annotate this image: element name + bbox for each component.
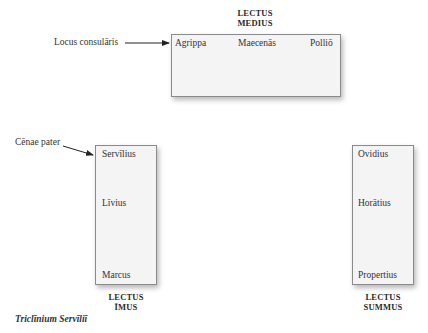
diagram-caption: Triclīnium Servīliī — [15, 314, 87, 324]
guest-pollio: Polliō — [310, 38, 333, 48]
lectus-medius-label: LECTUS MEDIUS — [215, 8, 295, 28]
lectus-medius-label-line2: MEDIUS — [215, 18, 295, 28]
cenae-pater-arrow — [63, 146, 93, 155]
lectus-imus-label-line1: LECTUS — [86, 292, 166, 302]
guest-servilius: Servīlius — [102, 149, 136, 159]
guest-livius: Līvius — [102, 198, 126, 208]
guest-agrippa: Agrippa — [175, 38, 206, 48]
cenae-pater-callout: Cēnae pater — [15, 137, 60, 147]
lectus-imus-couch: Servīlius Līvius Marcus — [95, 145, 157, 285]
guest-maecenas: Maecenās — [238, 38, 276, 48]
guest-ovidius: Ovidius — [358, 149, 388, 159]
lectus-summus-label-line1: LECTUS — [343, 292, 423, 302]
lectus-summus-couch: Ovidius Horātius Propertius — [352, 145, 414, 285]
lectus-imus-label: LECTUS ĪMUS — [86, 292, 166, 312]
guest-marcus: Marcus — [102, 270, 131, 280]
lectus-medius-label-line1: LECTUS — [215, 8, 295, 18]
lectus-summus-label-line2: SUMMUS — [343, 302, 423, 312]
lectus-summus-label: LECTUS SUMMUS — [343, 292, 423, 312]
guest-horatius: Horātius — [358, 198, 391, 208]
lectus-imus-label-line2: ĪMUS — [86, 302, 166, 312]
lectus-medius-couch: Agrippa Maecenās Polliō — [171, 34, 341, 97]
guest-propertius: Propertius — [358, 270, 397, 280]
locus-consularis-callout: Locus consulāris — [54, 37, 118, 47]
